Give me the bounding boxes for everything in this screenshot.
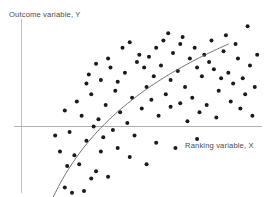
data-point bbox=[226, 71, 230, 75]
data-point bbox=[157, 114, 161, 118]
data-point bbox=[178, 101, 182, 105]
data-point bbox=[63, 108, 67, 112]
data-point bbox=[236, 56, 240, 60]
data-point bbox=[190, 96, 194, 100]
data-point bbox=[53, 133, 57, 137]
data-point bbox=[65, 164, 69, 168]
data-point bbox=[84, 82, 88, 86]
data-point bbox=[94, 169, 98, 173]
data-point bbox=[214, 116, 218, 120]
data-point bbox=[207, 60, 211, 64]
data-point bbox=[154, 141, 158, 145]
data-point bbox=[70, 191, 74, 195]
data-point bbox=[169, 105, 173, 109]
data-point bbox=[234, 42, 238, 46]
data-point bbox=[82, 189, 86, 193]
x-axis-label: Ranking variable, X bbox=[185, 142, 254, 150]
axes-group bbox=[14, 19, 262, 193]
data-point bbox=[147, 55, 151, 59]
data-point bbox=[195, 65, 199, 69]
data-point bbox=[253, 85, 257, 89]
data-point bbox=[212, 67, 216, 71]
data-point bbox=[169, 78, 173, 82]
data-point bbox=[178, 42, 182, 46]
data-point bbox=[231, 82, 235, 86]
data-point bbox=[183, 85, 187, 89]
data-point bbox=[104, 103, 108, 107]
data-point bbox=[142, 65, 146, 69]
data-point bbox=[173, 146, 177, 150]
y-axis-label: Outcome variable, Y bbox=[9, 11, 81, 19]
data-point bbox=[248, 64, 252, 68]
data-point bbox=[238, 107, 242, 111]
data-point bbox=[106, 56, 110, 60]
data-point bbox=[94, 62, 98, 66]
data-point bbox=[58, 150, 62, 154]
data-point bbox=[217, 89, 221, 93]
data-point bbox=[224, 33, 228, 37]
data-point bbox=[140, 107, 144, 111]
data-point bbox=[181, 35, 185, 39]
data-point bbox=[96, 117, 100, 121]
data-point bbox=[166, 31, 170, 35]
plot-canvas bbox=[0, 0, 270, 197]
data-point bbox=[171, 51, 175, 55]
data-point bbox=[128, 155, 132, 159]
data-point bbox=[63, 185, 67, 189]
data-point bbox=[219, 76, 223, 80]
data-point bbox=[243, 92, 247, 96]
data-point bbox=[200, 74, 204, 78]
data-point bbox=[188, 56, 192, 60]
data-points-group bbox=[53, 24, 259, 195]
scatter-plot-figure: Outcome variable, Y Ranking variable, X bbox=[0, 0, 270, 197]
data-point bbox=[80, 114, 84, 118]
data-point bbox=[222, 49, 226, 53]
data-point bbox=[75, 99, 79, 103]
data-point bbox=[210, 39, 214, 43]
data-point bbox=[241, 76, 245, 80]
data-point bbox=[205, 103, 209, 107]
data-point bbox=[246, 24, 250, 28]
data-point bbox=[111, 128, 115, 132]
data-point bbox=[137, 53, 141, 57]
data-point bbox=[116, 80, 120, 84]
data-point bbox=[250, 114, 254, 118]
data-point bbox=[113, 89, 117, 93]
data-point bbox=[101, 135, 105, 139]
data-point bbox=[161, 39, 165, 43]
data-point bbox=[145, 162, 149, 166]
data-point bbox=[125, 121, 129, 125]
data-point bbox=[99, 78, 103, 82]
data-point bbox=[133, 133, 137, 137]
data-point bbox=[116, 146, 120, 150]
data-point bbox=[92, 125, 96, 129]
data-point bbox=[185, 119, 189, 123]
data-point bbox=[123, 71, 127, 75]
data-point bbox=[87, 73, 91, 77]
data-point bbox=[121, 46, 125, 50]
data-point bbox=[106, 175, 110, 179]
data-point bbox=[152, 74, 156, 78]
data-point bbox=[149, 98, 153, 102]
data-point bbox=[193, 46, 197, 50]
data-point bbox=[164, 92, 168, 96]
data-point bbox=[229, 99, 233, 103]
data-point bbox=[72, 153, 76, 157]
data-point bbox=[128, 40, 132, 44]
data-point bbox=[197, 110, 201, 114]
data-point bbox=[159, 64, 163, 68]
data-point bbox=[255, 53, 259, 57]
data-point bbox=[99, 150, 103, 154]
fit-curve-line bbox=[48, 44, 228, 197]
data-point bbox=[68, 130, 72, 134]
data-point bbox=[108, 65, 112, 69]
data-point bbox=[77, 162, 81, 166]
data-point bbox=[89, 176, 93, 180]
data-point bbox=[135, 60, 139, 64]
data-point bbox=[154, 46, 158, 50]
data-point bbox=[89, 92, 93, 96]
